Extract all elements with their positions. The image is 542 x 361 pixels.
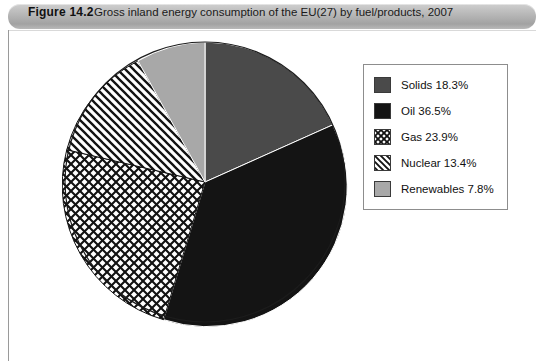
legend-swatch-nuclear <box>374 155 391 171</box>
legend-label-renewables: Renewables 7.8% <box>401 183 494 195</box>
legend-swatch-oil <box>374 103 391 119</box>
legend-item-nuclear: Nuclear 13.4% <box>364 150 507 176</box>
legend-item-solids: Solids 18.3% <box>364 72 507 98</box>
legend-label-nuclear: Nuclear 13.4% <box>401 157 476 169</box>
legend-label-gas: Gas 23.9% <box>401 131 458 143</box>
legend-item-gas: Gas 23.9% <box>364 124 507 150</box>
panel-top-rule <box>8 30 536 31</box>
figure-number: Figure 14.2 <box>28 5 94 19</box>
figure-caption: Gross inland energy consumption of the E… <box>94 6 453 18</box>
pie-chart <box>62 38 350 328</box>
legend-swatch-solids <box>374 77 391 93</box>
legend-swatch-renewables <box>374 181 391 197</box>
legend-label-oil: Oil 36.5% <box>401 105 451 117</box>
legend-swatch-gas <box>374 129 391 145</box>
legend-label-solids: Solids 18.3% <box>401 79 468 91</box>
legend-item-oil: Oil 36.5% <box>364 98 507 124</box>
legend: Solids 18.3% Oil 36.5% Gas 23.9% Nuclear… <box>363 64 508 210</box>
legend-item-renewables: Renewables 7.8% <box>364 176 507 202</box>
panel-left-rule <box>8 30 9 361</box>
figure-panel: Figure 14.2 Gross inland energy consumpt… <box>0 0 542 361</box>
